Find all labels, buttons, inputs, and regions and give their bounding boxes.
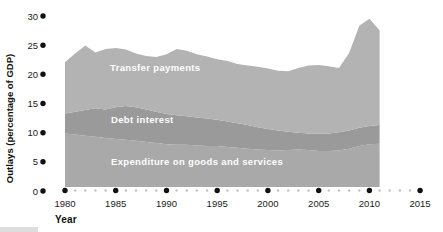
x-axis-title: Year <box>55 214 77 225</box>
x-tick-label: 1980 <box>48 198 82 209</box>
x-tick-label: 1995 <box>200 198 234 209</box>
area-label-transfer-payments: Transfer payments <box>110 62 200 73</box>
x-tick-label: 1985 <box>99 198 133 209</box>
y-axis-title: Outlays (percentage of GDP) <box>4 39 17 199</box>
x-tick-label: 2015 <box>403 198 437 209</box>
area-label-debt-interest: Debt interest <box>111 114 174 125</box>
area-label-expenditure-goods-services: Expenditure on goods and services <box>111 156 283 167</box>
y-tick-label: 10 <box>6 127 38 138</box>
cropped-corner-artifact <box>0 227 38 232</box>
x-tick-label: 2000 <box>251 198 285 209</box>
government-outlays-stacked-area-chart: Outlays (percentage of GDP) Transfer pay… <box>0 0 443 232</box>
y-tick-label: 5 <box>6 156 38 167</box>
x-tick-label: 1990 <box>150 198 184 209</box>
y-tick-label: 20 <box>6 69 38 80</box>
x-tick-label: 2005 <box>302 198 336 209</box>
y-tick-label: 15 <box>6 98 38 109</box>
y-tick-label: 30 <box>6 11 38 22</box>
y-tick-label: 0 <box>6 186 38 197</box>
y-tick-label: 25 <box>6 40 38 51</box>
x-tick-label: 2010 <box>352 198 386 209</box>
